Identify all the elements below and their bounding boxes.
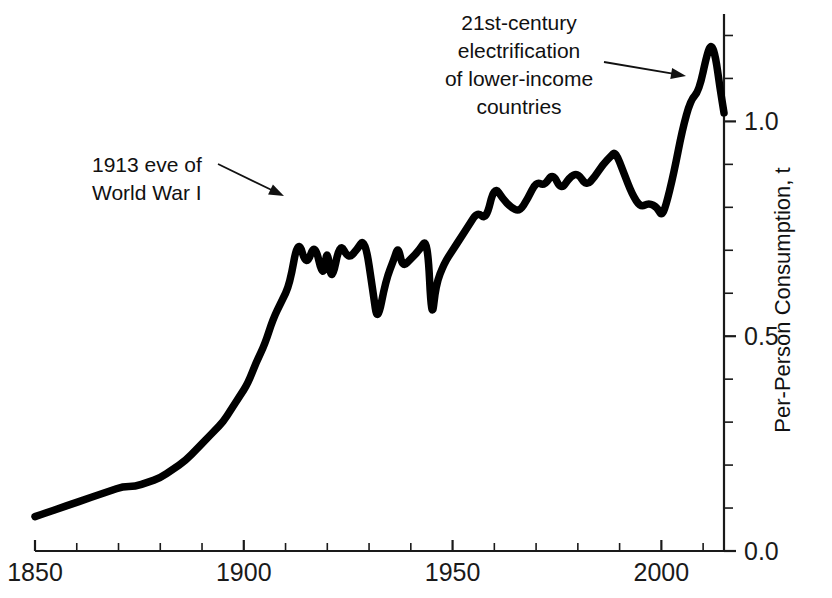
annotation-line: countries: [476, 95, 561, 118]
annotation-line: World War I: [92, 181, 202, 204]
axis-tick-labels: 18501900195020000.00.51.0: [7, 107, 779, 586]
x-tick-label: 1850: [7, 558, 63, 586]
annotation-line: 21st-century: [461, 11, 577, 34]
y-axis-title: Per-Person Consumption, t: [770, 167, 795, 432]
y-tick-label: 0.0: [744, 537, 779, 565]
x-tick-label: 1900: [216, 558, 272, 586]
chart-container: 18501900195020000.00.51.0 1913 eve ofWor…: [0, 0, 832, 598]
data-series-path: [35, 47, 724, 517]
annotation-leader-line: [218, 164, 273, 191]
data-series-line: [35, 47, 724, 517]
x-tick-label: 1950: [425, 558, 481, 586]
annotation-arrow-head: [268, 185, 284, 196]
annotation-line: electrification: [458, 39, 581, 62]
x-tick-label: 2000: [634, 558, 690, 586]
annotation-line: of lower-income: [445, 67, 593, 90]
annotation-leader-line: [604, 62, 674, 74]
axes: [35, 14, 724, 551]
consumption-line-chart: 18501900195020000.00.51.0 1913 eve ofWor…: [0, 0, 832, 598]
y-tick-label: 1.0: [744, 107, 779, 135]
annotation-line: 1913 eve of: [92, 153, 202, 176]
annotation-arrow-head: [670, 68, 686, 79]
